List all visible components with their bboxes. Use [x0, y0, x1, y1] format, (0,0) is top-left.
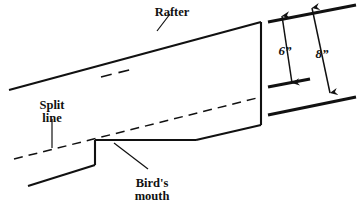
dim-extension-line-top [268, 5, 356, 22]
label-birds-mouth-row1: Bird's [136, 176, 169, 190]
label-split-line-row1: Split [39, 98, 65, 112]
rafter-bottom-edge [28, 165, 95, 186]
label-split-line-row2: line [42, 111, 62, 125]
label-rafter: Rafter [155, 5, 190, 19]
rafter-top-centerline-break [101, 69, 133, 77]
dimension-reference-group [268, 5, 356, 115]
dim-extension-line-bottom [268, 97, 356, 115]
rafter-lower-edge-rise [196, 125, 261, 140]
dimension-label-6in: 6” [279, 43, 293, 58]
birds-mouth-leader-line [114, 143, 148, 169]
label-group: Rafter Split line Bird's mouth 6” 8” [39, 5, 329, 203]
dimension-label-8in: 8” [316, 46, 330, 61]
label-birds-mouth-row2: mouth [135, 189, 170, 203]
rafter-top-edge [9, 22, 261, 90]
rafter-diagram-canvas: Rafter Split line Bird's mouth 6” 8” [0, 0, 361, 204]
dim-extension-line-middle [268, 79, 310, 87]
rafter-diagram: Rafter Split line Bird's mouth 6” 8” [0, 0, 361, 204]
leader-line-group [52, 14, 170, 169]
